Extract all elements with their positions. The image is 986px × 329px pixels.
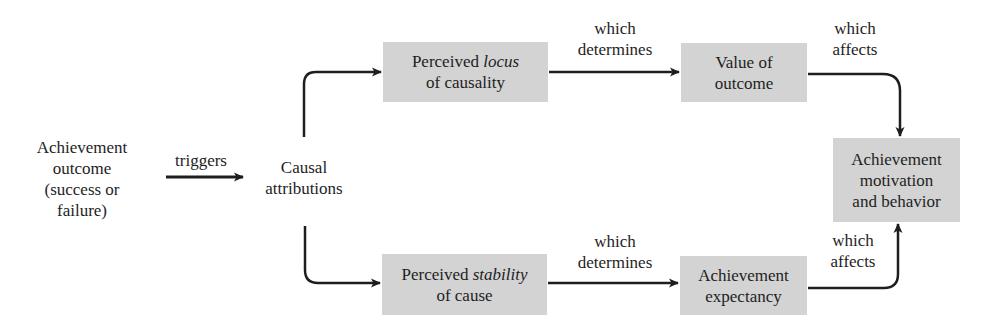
edge-label-top-determines: which determines <box>560 18 670 60</box>
node-achievement-outcome: Achievement outcome (success or failure) <box>22 137 142 221</box>
arrow-value-to-motivation <box>808 74 900 136</box>
node-perceived-locus: Perceived locus of causality <box>383 42 548 102</box>
attributions-line-1: Causal <box>246 157 362 178</box>
motivation-line-2: motivation <box>851 170 942 191</box>
outcome-line-4: failure) <box>22 200 142 221</box>
bottom-determines-line-1: which <box>560 231 670 252</box>
value-line-1: Value of <box>715 52 774 73</box>
expectancy-line-1: Achievement <box>698 265 789 286</box>
node-achievement-motivation: Achievement motivation and behavior <box>833 138 960 222</box>
value-line-2: outcome <box>715 73 774 94</box>
outcome-line-2: outcome <box>22 158 142 179</box>
locus-line-1: Perceived locus <box>412 51 519 72</box>
stability-line-2: of cause <box>401 285 527 306</box>
locus-prefix: Perceived <box>412 52 483 71</box>
attributions-line-2: attributions <box>246 178 362 199</box>
node-achievement-expectancy: Achievement expectancy <box>680 256 807 315</box>
top-determines-line-2: determines <box>560 39 670 60</box>
locus-line-2: of causality <box>412 72 519 93</box>
motivation-line-3: and behavior <box>851 191 942 212</box>
attribution-diagram: Achievement outcome (success or failure)… <box>0 0 986 329</box>
node-causal-attributions: Causal attributions <box>246 157 362 199</box>
top-affects-line-1: which <box>822 18 888 39</box>
arrow-to-locus <box>304 72 381 137</box>
edge-label-bottom-determines: which determines <box>560 231 670 273</box>
edge-label-top-affects: which affects <box>822 18 888 60</box>
stability-line-1: Perceived stability <box>401 264 527 285</box>
bottom-determines-line-2: determines <box>560 252 670 273</box>
edge-label-triggers: triggers <box>168 150 234 171</box>
stability-prefix: Perceived <box>401 265 472 284</box>
node-perceived-stability: Perceived stability of cause <box>382 254 547 315</box>
outcome-line-3: (success or <box>22 179 142 200</box>
bottom-affects-line-1: which <box>820 230 886 251</box>
locus-italic: locus <box>483 52 519 71</box>
arrow-to-stability <box>305 226 380 283</box>
stability-italic: stability <box>473 265 528 284</box>
top-determines-line-1: which <box>560 18 670 39</box>
motivation-line-1: Achievement <box>851 149 942 170</box>
node-value-of-outcome: Value of outcome <box>681 43 807 102</box>
top-affects-line-2: affects <box>822 39 888 60</box>
edge-label-bottom-affects: which affects <box>820 230 886 272</box>
outcome-line-1: Achievement <box>22 137 142 158</box>
expectancy-line-2: expectancy <box>698 286 789 307</box>
bottom-affects-line-2: affects <box>820 251 886 272</box>
